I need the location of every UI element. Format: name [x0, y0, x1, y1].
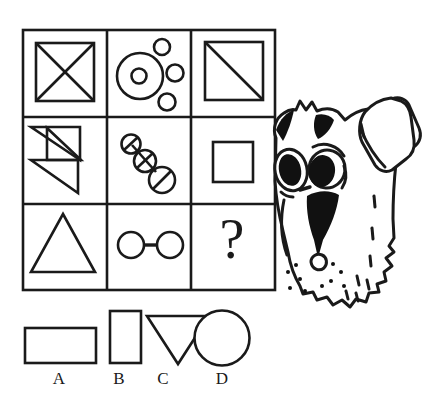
option-label-c[interactable]: C — [148, 370, 178, 387]
puzzle-page: ? — [0, 0, 429, 415]
option-label-a[interactable]: A — [44, 370, 74, 387]
option-label-b[interactable]: B — [104, 370, 134, 387]
dog-nose-tip — [311, 254, 326, 269]
option-label-d[interactable]: D — [207, 370, 237, 387]
cartoon-dog-head-icon — [0, 0, 429, 415]
